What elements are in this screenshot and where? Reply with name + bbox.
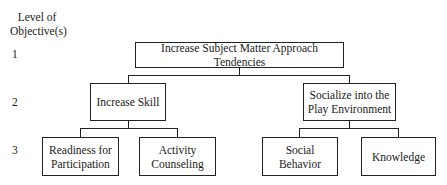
level-1-label: 1 [12, 47, 18, 61]
level-axis-label-line1: Level of [10, 10, 64, 24]
node-label-line1: Activity [159, 143, 197, 157]
node-readiness-for-participation: Readiness for Participation [42, 137, 119, 176]
node-label: Knowledge [372, 150, 425, 164]
level-axis-label-line2: Objective(s) [10, 24, 64, 38]
node-label-line2: Play Environment [308, 102, 391, 116]
connector [299, 128, 399, 129]
connector [128, 75, 350, 76]
connector [80, 128, 81, 137]
node-knowledge: Knowledge [361, 137, 436, 176]
node-label: Increase Skill [97, 95, 160, 109]
connector [80, 128, 178, 129]
node-social-behavior: Social Behavior [262, 137, 338, 176]
connector [177, 128, 178, 137]
node-label-line2: Participation [51, 157, 110, 171]
node-increase-subject-matter: Increase Subject Matter Approach Tendenc… [135, 42, 344, 68]
node-increase-skill: Increase Skill [90, 83, 166, 121]
level-2-label: 2 [12, 95, 18, 109]
node-socialize-play-environment: Socialize into the Play Environment [303, 83, 396, 121]
node-activity-counseling: Activity Counseling [139, 137, 216, 176]
node-label-line1: Social [286, 143, 315, 157]
node-label: Increase Subject Matter Approach Tendenc… [136, 41, 343, 69]
connector [398, 128, 399, 137]
node-label-line1: Socialize into the [310, 88, 390, 102]
connector [128, 75, 129, 83]
connector [349, 75, 350, 83]
level-axis-label: Level of Objective(s) [10, 10, 64, 38]
node-label-line2: Behavior [279, 157, 321, 171]
connector [299, 128, 300, 137]
node-label-line1: Readiness for [49, 143, 112, 157]
node-label-line2: Counseling [151, 157, 203, 171]
level-3-label: 3 [12, 143, 18, 157]
